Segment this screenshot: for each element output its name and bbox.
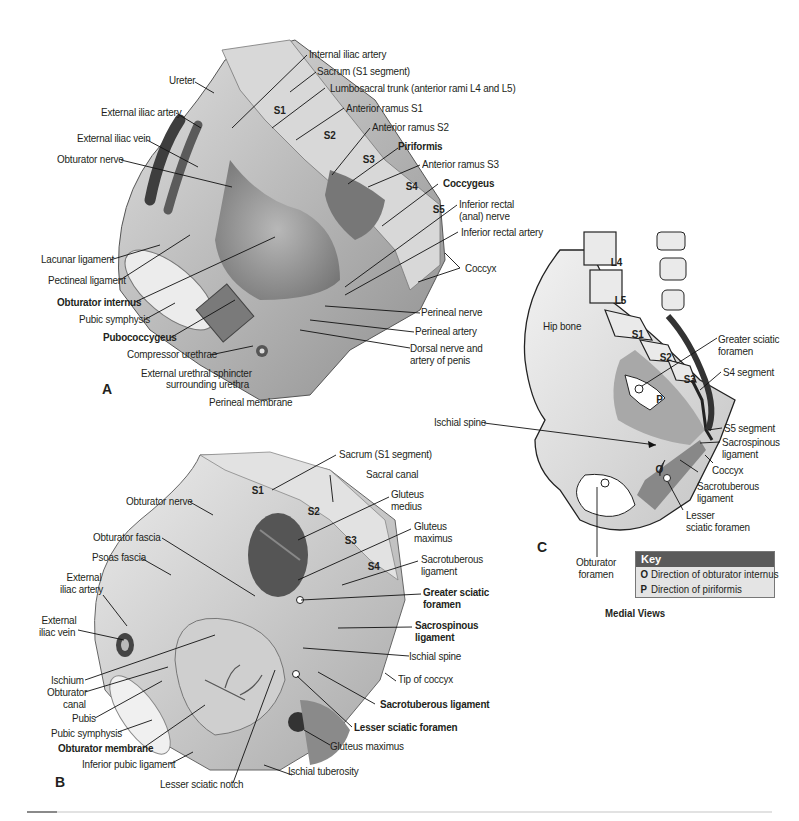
panel-letter-c: C [537, 539, 547, 555]
label-ureter: Ureter [169, 74, 195, 87]
label-lesser-sciatic-foramen-c-2: sciatic foramen [686, 521, 750, 534]
label-obturator-foramen-2: foramen [570, 568, 622, 581]
key-title: Key [636, 552, 774, 567]
label-pubococcygeus: Pubococcygeus [103, 331, 177, 344]
label-lumbosacral-trunk: Lumbosacral trunk (anterior rami L4 and … [330, 82, 516, 95]
label-sacrotuberous-b-2: ligament [421, 565, 457, 578]
label-external-iliac-vein-b-2: iliac vein [39, 626, 75, 639]
label-sacrotuberous-ligament-b: Sacrotuberous ligament [380, 698, 489, 711]
segment-c-s3: S3 [684, 373, 696, 385]
label-piriformis: Piriformis [398, 140, 442, 153]
label-perineal-membrane: Perineal membrane [209, 396, 292, 409]
key-item-p: PDirection of piriformis [636, 582, 757, 597]
key-item-o: ODirection of obturator internus [636, 567, 757, 582]
panel-letter-b: B [55, 774, 65, 790]
label-perineal-artery: Perineal artery [415, 325, 477, 338]
label-s5-segment: S5 segment [724, 422, 775, 435]
label-perineal-nerve: Perineal nerve [421, 306, 482, 319]
key-item-o-code: O [640, 569, 651, 580]
segment-b-s3: S3 [345, 534, 357, 546]
label-obturator-nerve: Obturator nerve [57, 153, 124, 166]
label-psoas-fascia: Psoas fascia [92, 551, 146, 564]
label-external-urethral-sphincter-2: surrounding urethra [166, 378, 249, 391]
label-inferior-rectal-artery: Inferior rectal artery [461, 226, 543, 239]
bottom-divider-accent [27, 811, 57, 813]
label-obturator-fascia: Obturator fascia [93, 531, 161, 544]
label-sacral-canal: Sacral canal [366, 468, 418, 481]
label-inferior-pubic-ligament: Inferior pubic ligament [82, 758, 175, 771]
label-tip-of-coccyx: Tip of coccyx [398, 673, 453, 686]
label-sacrospinous-ligament-b-2: ligament [415, 631, 454, 644]
segment-s5: S5 [433, 203, 445, 215]
anatomy-figure: Internal iliac artery Sacrum (S1 segment… [0, 0, 799, 821]
label-pubis: Pubis [72, 712, 96, 725]
label-sacrotuberous-ligament-c-2: ligament [697, 492, 733, 505]
label-gluteus-medius-2: medius [391, 500, 422, 513]
label-anterior-ramus-s3: Anterior ramus S3 [422, 158, 499, 171]
label-greater-sciatic-foramen-b-2: foramen [423, 598, 461, 611]
label-internal-iliac-artery: Internal iliac artery [309, 48, 386, 61]
key-item-p-text: Direction of piriformis [651, 583, 742, 595]
label-sacrum-s1-segment-b: Sacrum (S1 segment) [339, 448, 432, 461]
label-external-iliac-vein: External iliac vein [77, 132, 151, 145]
label-pubic-symphysis: Pubic symphysis [79, 313, 150, 326]
label-coccygeus: Coccygeus [443, 177, 494, 190]
label-external-iliac-artery-b-2: iliac artery [60, 583, 103, 596]
label-external-iliac-artery: External iliac artery [101, 106, 181, 119]
label-ischial-tuberosity: Ischial tuberosity [288, 765, 359, 778]
segment-c-l5: L5 [615, 294, 627, 306]
label-obturator-nerve-b: Obturator nerve [126, 495, 193, 508]
segment-c-s1: S1 [632, 328, 644, 340]
label-pubic-symphysis-b: Pubic symphysis [51, 727, 122, 740]
key-legend: Key ODirection of obturator internus PDi… [635, 551, 775, 598]
segment-c-s2: S2 [660, 351, 672, 363]
segment-s2: S2 [324, 129, 336, 141]
label-hip-bone: Hip bone [543, 320, 581, 333]
label-lesser-sciatic-notch: Lesser sciatic notch [160, 778, 243, 791]
label-anterior-ramus-s1: Anterior ramus S1 [346, 102, 423, 115]
label-inferior-rectal-nerve-2: (anal) nerve [459, 210, 510, 223]
segment-s4: S4 [406, 180, 418, 192]
label-anterior-ramus-s2: Anterior ramus S2 [372, 121, 449, 134]
key-item-p-code: P [640, 584, 651, 595]
label-gluteus-maximus-b-2: maximus [414, 532, 452, 545]
label-ischial-spine-c: Ischial spine [434, 416, 486, 429]
label-ischial-spine-b: Ischial spine [409, 650, 461, 663]
label-obturator-internus: Obturator internus [57, 296, 141, 309]
bottom-divider [27, 811, 772, 813]
label-greater-sciatic-foramen-c-2: foramen [718, 345, 753, 358]
segment-b-s4: S4 [368, 560, 380, 572]
label-sacrum-s1-segment: Sacrum (S1 segment) [317, 65, 410, 78]
marker-p-piriformis: P [656, 393, 663, 405]
label-obturator-membrane: Obturator membrane [58, 742, 153, 755]
segment-b-s2: S2 [308, 505, 320, 517]
label-dorsal-nerve-artery-penis-2: artery of penis [410, 354, 470, 367]
panel-letter-a: A [102, 381, 112, 397]
label-coccyx-c: Coccyx [712, 464, 743, 477]
segment-c-l4: L4 [611, 256, 623, 268]
label-lesser-sciatic-foramen-b: Lesser sciatic foramen [354, 721, 457, 734]
label-s4-segment: S4 segment [723, 366, 774, 379]
label-obturator-canal-2: canal [63, 698, 86, 711]
figure-caption: Medial Views [605, 607, 665, 619]
label-gluteus-maximus-b-lower: Gluteus maximus [330, 740, 404, 753]
label-compressor-urethrae: Compressor urethrae [127, 348, 217, 361]
segment-s1: S1 [274, 104, 286, 116]
label-sacrospinous-ligament-c-2: ligament [722, 448, 758, 461]
marker-o-obturator-internus: O [655, 463, 663, 475]
segment-b-s1: S1 [252, 484, 264, 496]
label-coccyx: Coccyx [465, 262, 496, 275]
segment-s3: S3 [363, 153, 375, 165]
label-lacunar-ligament: Lacunar ligament [41, 253, 114, 266]
key-item-o-text: Direction of obturator internus [651, 568, 779, 580]
label-pectineal-ligament: Pectineal ligament [48, 274, 126, 287]
